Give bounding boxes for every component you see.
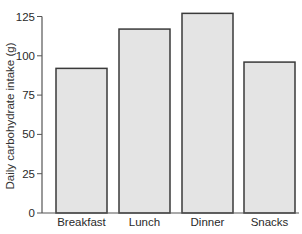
y-axis-label: Daily carbohydrate intake (g): [4, 42, 16, 189]
y-tick-label: 25: [22, 168, 35, 180]
chart-canvas: 0255075100125 BreakfastLunchDinnerSnacks: [0, 0, 302, 234]
x-tick-label: Breakfast: [57, 216, 106, 228]
y-tick-label: 75: [22, 89, 35, 101]
y-tick-label: 100: [16, 50, 35, 62]
bars-group: [56, 13, 295, 213]
x-tick-label: Dinner: [191, 216, 225, 228]
x-axis-labels: BreakfastLunchDinnerSnacks: [57, 216, 288, 228]
bar-snacks: [244, 62, 295, 213]
bar-dinner: [182, 13, 233, 213]
bar-breakfast: [56, 68, 107, 213]
y-tick-label: 50: [22, 128, 35, 140]
bar-lunch: [119, 29, 170, 213]
x-tick-label: Snacks: [251, 216, 289, 228]
y-tick-label: 0: [29, 207, 35, 219]
x-tick-label: Lunch: [129, 216, 160, 228]
y-tick-label: 125: [16, 11, 35, 23]
